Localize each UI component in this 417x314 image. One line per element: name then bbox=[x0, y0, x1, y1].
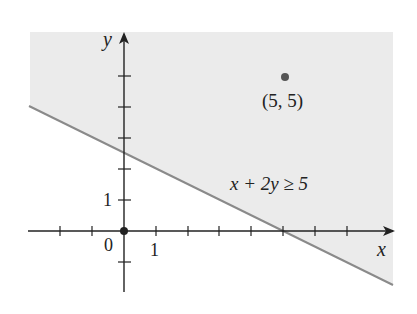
origin-point bbox=[120, 227, 128, 235]
region-label: x + 2y ≥ 5 bbox=[229, 173, 308, 194]
origin-label: 0 bbox=[104, 235, 113, 255]
y-axis-label: y bbox=[101, 28, 112, 51]
test-point bbox=[281, 73, 289, 81]
shaded-region bbox=[30, 32, 393, 285]
x-axis-label: x bbox=[376, 238, 386, 260]
inequality-graph: y x 0 1 1 (5, 5) x + 2y ≥ 5 bbox=[0, 0, 417, 314]
y-tick-label: 1 bbox=[103, 190, 112, 210]
test-point-label: (5, 5) bbox=[262, 90, 303, 112]
x-tick-label: 1 bbox=[150, 240, 159, 260]
